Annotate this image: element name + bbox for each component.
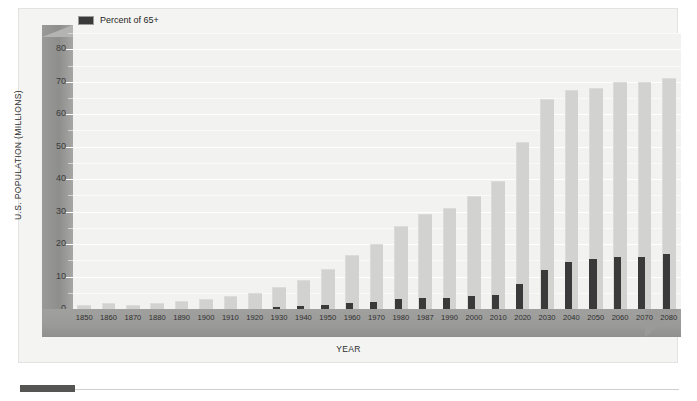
- x-axis-tick-label: 2000: [462, 313, 486, 322]
- bar-percent-65-plus: [614, 257, 621, 309]
- bar-total-population: [248, 293, 262, 309]
- y-axis-tick-labels: 01020304050607080: [36, 0, 66, 401]
- x-axis-tick-labels: 1850186018701880189019001910192019301940…: [72, 313, 681, 329]
- x-axis-tick-label: 1850: [72, 313, 96, 322]
- bar-group: [321, 33, 335, 309]
- bar-total-population: [418, 214, 432, 309]
- x-axis-tick-label: 2070: [632, 313, 656, 322]
- bar-group: [370, 33, 384, 309]
- x-axis-tick-label: 1880: [145, 313, 169, 322]
- x-axis-tick-label: 1980: [389, 313, 413, 322]
- bar-percent-65-plus: [516, 284, 523, 309]
- bar-percent-65-plus: [638, 257, 645, 309]
- bar-percent-65-plus: [589, 259, 596, 309]
- bar-series-container: [72, 33, 681, 309]
- legend-swatch-percent-65-plus: [78, 16, 94, 25]
- bar-percent-65-plus: [419, 298, 426, 309]
- x-axis-tick-label: 2060: [608, 313, 632, 322]
- x-axis-tick-label: 1900: [194, 313, 218, 322]
- bar-total-population: [370, 244, 384, 309]
- x-axis-tick-label: 1910: [218, 313, 242, 322]
- x-axis-tick-label: 1870: [121, 313, 145, 322]
- y-axis-tick-label: 20: [40, 239, 66, 248]
- bar-percent-65-plus: [565, 262, 572, 309]
- y-axis-tick-label: 30: [40, 207, 66, 216]
- bar-total-population: [175, 301, 189, 309]
- bar-group: [345, 33, 359, 309]
- x-axis-tick-label: 2010: [486, 313, 510, 322]
- bar-percent-65-plus: [492, 295, 499, 309]
- bar-percent-65-plus: [395, 299, 402, 309]
- bar-group: [491, 33, 505, 309]
- bar-group: [150, 33, 164, 309]
- x-axis-tick-label: 1890: [169, 313, 193, 322]
- bar-group: [224, 33, 238, 309]
- x-axis-tick-label: 1987: [413, 313, 437, 322]
- x-axis-tick-label: 1860: [96, 313, 120, 322]
- bar-percent-65-plus: [663, 254, 670, 309]
- bar-group: [272, 33, 286, 309]
- y-axis-tick-label: 80: [40, 44, 66, 53]
- bar-total-population: [224, 296, 238, 309]
- bar-group: [394, 33, 408, 309]
- bar-group: [565, 33, 579, 309]
- x-axis-tick-label: 1930: [267, 313, 291, 322]
- bar-group: [418, 33, 432, 309]
- bar-group: [467, 33, 481, 309]
- legend-label-percent-65-plus: Percent of 65+: [100, 15, 159, 25]
- y-axis-tick-label: 10: [40, 272, 66, 281]
- legend: Percent of 65+: [78, 15, 159, 25]
- bar-total-population: [272, 287, 286, 309]
- x-axis-tick-label: 1920: [243, 313, 267, 322]
- y-axis-tick-label: 60: [40, 109, 66, 118]
- bar-group: [199, 33, 213, 309]
- bar-group: [297, 33, 311, 309]
- x-axis-tick-label: 1940: [291, 313, 315, 322]
- x-axis-tick-label: 1990: [437, 313, 461, 322]
- bar-total-population: [443, 208, 457, 309]
- bottom-divider: [20, 389, 679, 390]
- bar-total-population: [467, 196, 481, 309]
- y-axis-title: U.S. POPULATION (MILLIONS): [13, 45, 23, 265]
- x-axis-tick-label: 1960: [340, 313, 364, 322]
- bar-group: [175, 33, 189, 309]
- bar-percent-65-plus: [443, 298, 450, 309]
- bar-group: [589, 33, 603, 309]
- bar-group: [77, 33, 91, 309]
- x-axis-tick-label: 2050: [584, 313, 608, 322]
- bar-percent-65-plus: [370, 302, 377, 309]
- bar-percent-65-plus: [468, 296, 475, 309]
- bar-group: [248, 33, 262, 309]
- bottom-accent-block: [20, 385, 75, 392]
- x-axis-tick-label: 2040: [559, 313, 583, 322]
- bar-total-population: [394, 226, 408, 309]
- bar-total-population: [491, 181, 505, 309]
- chart-root: 01020304050607080 U.S. POPULATION (MILLI…: [0, 0, 697, 401]
- bar-total-population: [297, 280, 311, 309]
- bar-group: [443, 33, 457, 309]
- bar-group: [102, 33, 116, 309]
- y-axis-tick-label: 40: [40, 174, 66, 183]
- bar-percent-65-plus: [541, 270, 548, 309]
- bar-total-population: [199, 299, 213, 309]
- bar-group: [613, 33, 627, 309]
- x-axis-tick-label: 1970: [364, 313, 388, 322]
- x-axis-tick-label: 2020: [510, 313, 534, 322]
- bar-group: [662, 33, 676, 309]
- x-axis-tick-label: 2030: [535, 313, 559, 322]
- bar-group: [516, 33, 530, 309]
- bar-group: [126, 33, 140, 309]
- y-axis-tick-label: 70: [40, 77, 66, 86]
- bar-total-population: [345, 255, 359, 309]
- bar-group: [638, 33, 652, 309]
- bar-group: [540, 33, 554, 309]
- x-axis-tick-label: 1950: [316, 313, 340, 322]
- bar-total-population: [321, 269, 335, 309]
- x-axis-tick-label: 2080: [657, 313, 681, 322]
- x-axis-title: YEAR: [0, 344, 697, 354]
- y-axis-tick-label: 50: [40, 142, 66, 151]
